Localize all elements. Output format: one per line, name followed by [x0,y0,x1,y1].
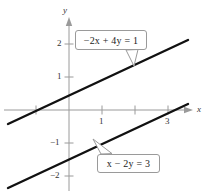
line-upper [8,40,188,124]
y-tick-label--1: −1 [50,138,60,147]
x-tick-label-1: 1 [99,117,104,126]
y-tick-label-2: 2 [57,39,62,48]
y-tick-label--2: −2 [50,171,60,180]
y-axis-label: y [63,6,67,15]
y-tick-label-1: 1 [57,72,62,81]
x-axis-label: x [197,105,201,114]
x-axis-arrowhead [184,107,193,113]
x-tick-label-3: 3 [165,117,170,126]
y-axis-arrowhead [66,17,72,26]
callout-equation-lower: x − 2y = 3 [97,154,160,173]
callout-equation-upper: −2x + 4y = 1 [75,30,147,50]
graph-figure: x y 2 1 −1 −2 1 3 −2x + 4y = 1 x − 2y = … [0,0,209,194]
